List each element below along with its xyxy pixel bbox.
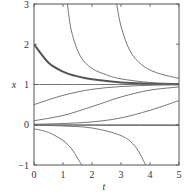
- x-tick-label: 2: [90, 169, 95, 180]
- y-axis-label: x: [11, 79, 17, 90]
- solution-curve: [34, 101, 179, 125]
- solution-curve: [34, 125, 146, 165]
- x-tick-label: 0: [32, 169, 37, 180]
- solution-curve: [34, 44, 179, 84]
- x-tick-label: 3: [119, 169, 124, 180]
- chart: 012345 −10123 t x: [0, 0, 192, 193]
- y-tick-label: 2: [24, 39, 29, 50]
- x-axis-label: t: [103, 181, 106, 192]
- y-tick-label: 0: [24, 119, 29, 130]
- y-tick-label: 3: [24, 0, 29, 10]
- plot-curves: [34, 4, 179, 165]
- x-tick-label: 5: [177, 169, 182, 180]
- y-tick-label: 1: [24, 79, 29, 90]
- solution-curve: [67, 4, 179, 84]
- x-tick-label: 1: [61, 169, 66, 180]
- solution-curve: [117, 4, 179, 79]
- x-tick-labels: 012345: [32, 169, 182, 180]
- y-tick-labels: −10123: [18, 0, 29, 171]
- y-tick-label: −1: [18, 160, 29, 171]
- solution-curve: [34, 129, 82, 165]
- x-tick-label: 4: [148, 169, 153, 180]
- solution-curve: [34, 87, 179, 121]
